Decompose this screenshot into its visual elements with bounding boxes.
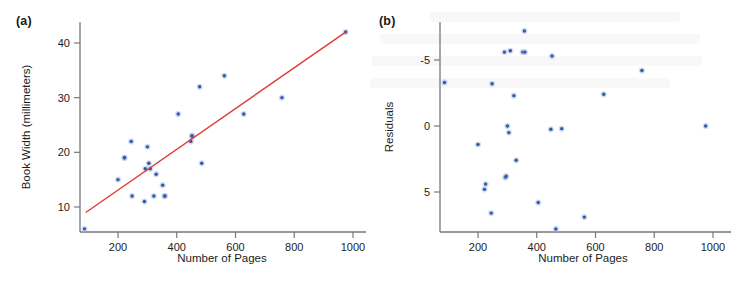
panel-a-x-axis-title: Number of Pages [177, 252, 267, 264]
svg-text:800: 800 [645, 241, 663, 253]
panel-b-y-ticks: -505 [420, 54, 440, 198]
panel-a: (a) 10203040 2004006008001000 Number of … [0, 0, 366, 282]
svg-text:-5: -5 [420, 54, 430, 66]
svg-text:1000: 1000 [701, 241, 725, 253]
panel-b-y-axis-title: Residuals [383, 102, 395, 153]
panel-b-axes [440, 22, 731, 232]
figure-container: (a) 10203040 2004006008001000 Number of … [0, 0, 731, 282]
panel-b-data-points [441, 28, 708, 232]
panel-b-x-axis-title: Number of Pages [538, 252, 628, 264]
svg-text:10: 10 [58, 201, 70, 213]
panel-a-y-axis-title: Book Width (millimeters) [20, 65, 32, 190]
svg-text:5: 5 [424, 186, 430, 198]
svg-text:30: 30 [58, 92, 70, 104]
panel-b-plot: -505 2004006008001000 Number of Pages Re… [365, 0, 731, 282]
panel-b: (b) -505 2004006008001000 Number of Page… [365, 0, 731, 282]
panel-a-axes [80, 22, 366, 232]
svg-text:200: 200 [469, 241, 487, 253]
svg-text:1000: 1000 [341, 241, 365, 253]
svg-text:40: 40 [58, 37, 70, 49]
svg-text:0: 0 [424, 120, 430, 132]
regression-line [86, 32, 346, 212]
svg-text:20: 20 [58, 146, 70, 158]
svg-text:200: 200 [109, 241, 127, 253]
panel-a-data-points [81, 29, 348, 232]
panel-a-y-ticks: 10203040 [58, 37, 80, 213]
panel-a-x-ticks: 2004006008001000 [109, 232, 365, 253]
panel-b-x-ticks: 2004006008001000 [469, 232, 725, 253]
svg-text:800: 800 [285, 241, 303, 253]
panel-a-plot: 10203040 2004006008001000 Number of Page… [0, 0, 366, 282]
